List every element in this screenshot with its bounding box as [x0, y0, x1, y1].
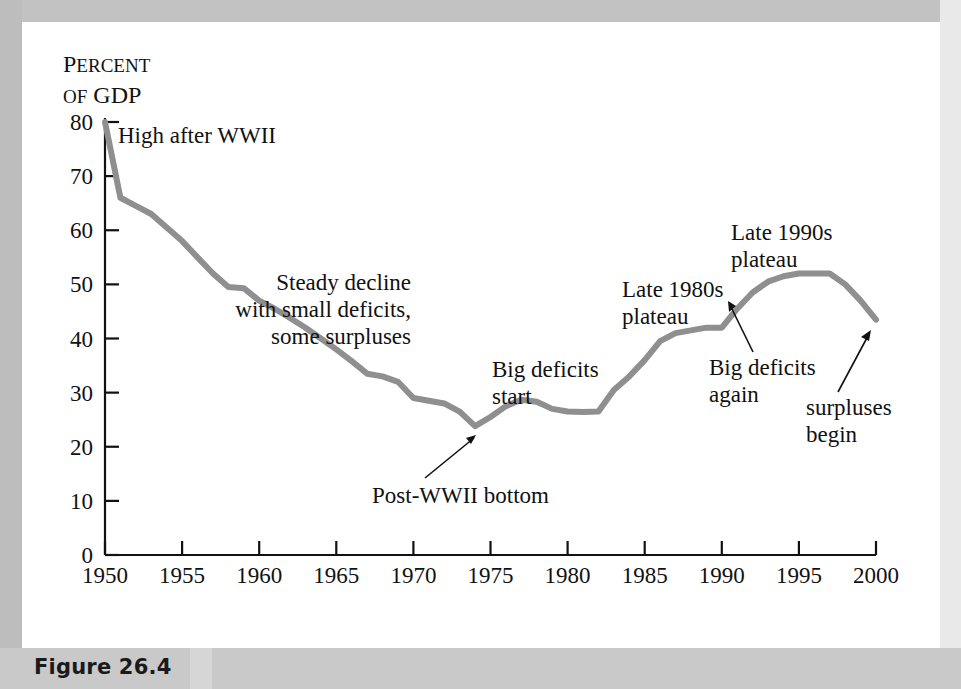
arrow-surpluses-begin [838, 334, 869, 392]
annotation-surpluses-begin-line2: begin [806, 422, 858, 447]
x-axis-tick-label: 1995 [776, 563, 822, 588]
debt-to-gdp-line [105, 122, 876, 426]
annotation-big-deficits-again-line2: again [709, 382, 759, 407]
y-axis-tick-label: 60 [70, 218, 93, 243]
annotation-late-1980s-plateau-line1: Late 1980s [622, 277, 724, 302]
y-axis-tick-label: 40 [70, 327, 93, 352]
arrowhead-surpluses-begin [861, 330, 871, 341]
annotation-late-1990s-plateau: Late 1990s plateau [731, 220, 833, 272]
arrow-big-deficits-again [730, 305, 753, 352]
x-axis-tick-label: 1960 [236, 563, 282, 588]
y-axis-tick-label: 80 [70, 110, 93, 135]
x-axis-tick-label: 1970 [390, 563, 436, 588]
annotation-late-1990s-plateau-line2: plateau [731, 247, 798, 272]
y-axis-tick-label: 10 [70, 489, 93, 514]
y-axis-tick-label: 70 [70, 164, 93, 189]
annotation-steady-decline-line1: Steady decline [276, 270, 411, 295]
annotation-steady-decline: Steady decline with small deficits, some… [235, 270, 411, 349]
x-axis-tick-label: 1990 [699, 563, 745, 588]
annotation-steady-decline-line2: with small deficits, [235, 297, 411, 322]
x-axis-tick-label: 2000 [853, 563, 899, 588]
annotation-late-1980s-plateau-line2: plateau [622, 304, 689, 329]
annotation-steady-decline-line3: some surpluses [271, 324, 411, 349]
y-axis-title-line1: PERCENT [63, 51, 151, 77]
annotation-big-deficits-again-line1: Big deficits [709, 355, 816, 380]
annotation-surpluses-begin-line1: surpluses [806, 395, 892, 420]
x-axis-ticks: 1950195519601965197019751980198519901995… [82, 541, 899, 588]
annotation-late-1990s-plateau-line1: Late 1990s [731, 220, 833, 245]
x-axis-tick-label: 1985 [622, 563, 668, 588]
x-axis-tick-label: 1955 [159, 563, 205, 588]
y-axis-tick-label: 20 [70, 435, 93, 460]
x-axis-tick-label: 1980 [545, 563, 591, 588]
annotation-big-deficits-start-line1: Big deficits [492, 357, 599, 382]
figure-container: 01020304050607080 1950195519601965197019… [0, 0, 961, 689]
y-axis-title: PERCENT OF GDP [63, 51, 151, 108]
y-axis-title-line2: OF GDP [63, 82, 141, 108]
y-axis-tick-label: 30 [70, 381, 93, 406]
x-axis-tick-label: 1965 [313, 563, 359, 588]
annotation-big-deficits-start: Big deficits start [492, 357, 599, 409]
arrow-post-wwii-bottom [425, 438, 474, 478]
caption-band-notch [190, 648, 212, 689]
figure-caption: Figure 26.4 [34, 655, 171, 679]
annotation-post-wwii-bottom: Post-WWII bottom [372, 483, 549, 508]
annotation-high-after-wwii: High after WWII [118, 123, 276, 148]
annotation-big-deficits-again: Big deficits again [709, 355, 816, 407]
annotation-big-deficits-start-line2: start [492, 384, 532, 409]
x-axis-tick-label: 1950 [82, 563, 128, 588]
annotation-surpluses-begin: surpluses begin [806, 395, 892, 447]
y-axis-tick-label: 50 [70, 272, 93, 297]
y-axis-ticks: 01020304050607080 [70, 110, 119, 568]
x-axis-tick-label: 1975 [468, 563, 514, 588]
line-chart: 01020304050607080 1950195519601965197019… [0, 0, 961, 648]
annotation-late-1980s-plateau: Late 1980s plateau [622, 277, 724, 329]
